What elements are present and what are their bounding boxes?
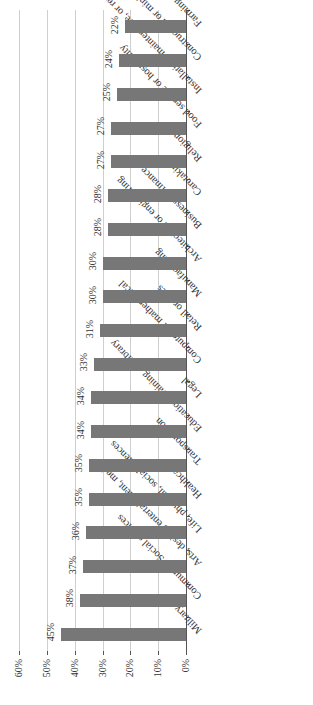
bar <box>111 155 186 168</box>
bar <box>86 526 186 539</box>
value-label: 28% <box>92 218 103 236</box>
bar <box>103 290 186 303</box>
gridline <box>47 10 48 651</box>
value-label: 33% <box>78 353 89 371</box>
x-tick <box>186 651 187 655</box>
value-label: 27% <box>95 117 106 135</box>
value-label: 22% <box>109 16 120 34</box>
x-tick <box>19 651 20 655</box>
value-label: 28% <box>92 185 103 203</box>
x-tick-label: 50% <box>41 659 52 677</box>
value-label: 30% <box>87 252 98 270</box>
value-label: 37% <box>67 556 78 574</box>
x-tick-label: 20% <box>124 659 135 677</box>
x-tick <box>130 651 131 655</box>
value-label: 24% <box>103 50 114 68</box>
bar <box>108 189 186 202</box>
bar <box>117 88 187 101</box>
bar <box>111 122 186 135</box>
value-label: 38% <box>64 589 75 607</box>
x-tick <box>103 651 104 655</box>
bar <box>89 493 186 506</box>
bar <box>80 594 186 607</box>
value-label: 25% <box>101 83 112 101</box>
value-label: 35% <box>73 454 84 472</box>
bar <box>125 20 186 33</box>
value-label: 31% <box>84 320 95 338</box>
bar <box>83 560 186 573</box>
value-label: 36% <box>70 522 81 540</box>
bar <box>103 257 186 270</box>
value-label: 35% <box>73 488 84 506</box>
bar <box>94 358 186 371</box>
value-label: 45% <box>45 623 56 641</box>
value-label: 30% <box>87 286 98 304</box>
value-label: 27% <box>95 151 106 169</box>
gridline <box>75 10 76 651</box>
bar <box>61 628 186 641</box>
x-tick-label: 60% <box>13 659 24 677</box>
bar <box>91 391 186 404</box>
x-tick <box>47 651 48 655</box>
gridline <box>19 10 20 651</box>
x-tick <box>158 651 159 655</box>
x-tick <box>75 651 76 655</box>
bar <box>89 459 186 472</box>
bar <box>100 324 186 337</box>
bar <box>108 223 186 236</box>
rotated-bar-chart: 0%10%20%30%40%50%60%45%Military38%Commun… <box>0 0 313 705</box>
x-tick-label: 30% <box>97 659 108 677</box>
bar <box>91 425 186 438</box>
x-tick-label: 0% <box>180 659 191 672</box>
x-tick-label: 10% <box>152 659 163 677</box>
value-label: 34% <box>75 387 86 405</box>
bar <box>119 54 186 67</box>
x-tick-label: 40% <box>69 659 80 677</box>
value-label: 34% <box>75 421 86 439</box>
